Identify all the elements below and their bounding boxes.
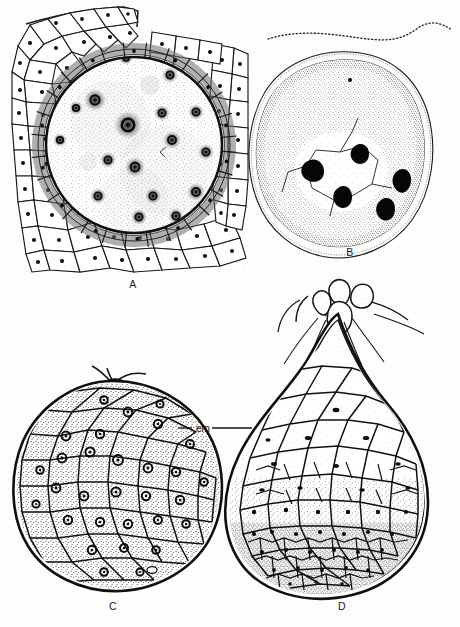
figure-plate: A — [0, 0, 460, 627]
em-label: em — [196, 423, 210, 434]
botanical-plate-drawing: A — [0, 0, 460, 627]
panel-b-body — [256, 60, 424, 247]
panel-b-small-dot — [348, 78, 352, 82]
panel-letter-c: C — [109, 600, 117, 612]
panel-letter-b: B — [346, 246, 354, 258]
panel-letter-d: D — [338, 600, 346, 612]
panel-letter-a: A — [129, 278, 137, 290]
panel-a-drawing: A — [12, 7, 248, 290]
